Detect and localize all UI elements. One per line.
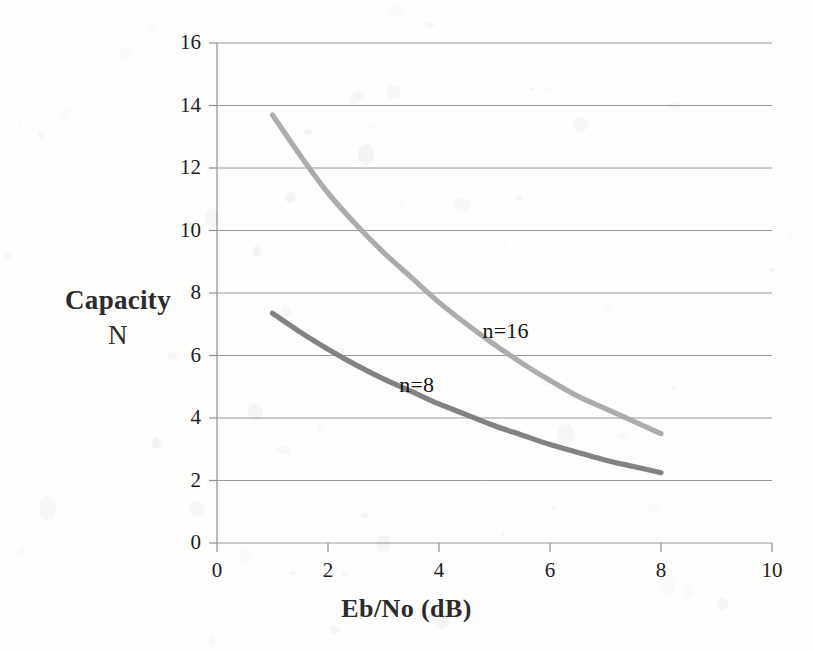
x-tick-label: 4: [419, 560, 459, 581]
series-line-n8: [273, 313, 662, 472]
y-tick-label: 12: [161, 157, 201, 178]
y-tick-label: 10: [161, 220, 201, 241]
y-tick-label: 0: [161, 532, 201, 553]
y-tick-label: 2: [161, 470, 201, 491]
y-tick-label: 14: [161, 95, 201, 116]
gridlines: [217, 43, 772, 543]
data-series-group: [273, 115, 662, 473]
x-axis-title: Eb/No (dB): [0, 594, 813, 624]
series-label-n8: n=8: [399, 372, 434, 398]
x-tick-label: 10: [752, 560, 792, 581]
chart-figure: 0246810121416 0246810 n=16n=8 Capacity N…: [0, 0, 813, 651]
series-line-n16: [273, 115, 662, 434]
x-tick-label: 2: [308, 560, 348, 581]
y-tick-label: 16: [161, 32, 201, 53]
y-axis-title-line1: Capacity: [65, 285, 171, 315]
x-tick-label: 0: [197, 560, 237, 581]
y-tick-label: 4: [161, 407, 201, 428]
axis-ticks: [209, 43, 772, 552]
series-label-n16: n=16: [483, 318, 529, 344]
y-axis-title: Capacity N: [38, 283, 198, 352]
x-tick-label: 6: [530, 560, 570, 581]
x-tick-label: 8: [641, 560, 681, 581]
y-axis-title-line2: N: [38, 318, 198, 353]
